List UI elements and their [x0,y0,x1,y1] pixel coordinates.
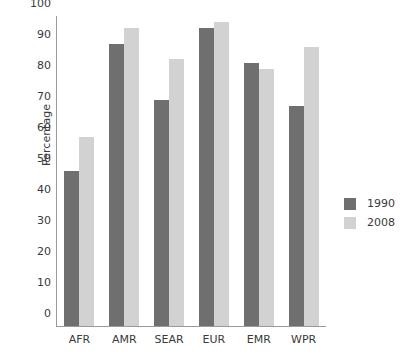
bar-group-afr: AFR [64,16,94,326]
y-tick-label: 100 [30,0,51,10]
bar-afr-2008[interactable] [79,137,94,326]
y-tick-label: 0 [44,307,51,320]
y-tick-label: 70 [37,90,51,103]
bar-emr-2008[interactable] [259,69,274,326]
bar-group-sear: SEAR [154,16,184,326]
legend-swatch-icon [344,198,356,210]
legend-item-1990[interactable]: 1990 [344,194,395,213]
legend: 19902008 [344,194,395,232]
legend-label: 2008 [367,216,395,229]
bar-sear-1990[interactable] [154,100,169,326]
bar-sear-2008[interactable] [169,59,184,326]
bar-group-eur: EUR [199,16,229,326]
legend-item-2008[interactable]: 2008 [344,213,395,232]
bar-group-emr: EMR [244,16,274,326]
plot-area: 0102030405060708090100 AFRAMRSEAREUREMRW… [56,16,326,327]
bar-chart: Percentage 0102030405060708090100 AFRAMR… [0,0,411,360]
bar-emr-1990[interactable] [244,63,259,327]
y-tick-label: 80 [37,59,51,72]
y-tick-label: 50 [37,152,51,165]
bar-afr-1990[interactable] [64,171,79,326]
y-tick-label: 90 [37,28,51,41]
y-tick-label: 30 [37,214,51,227]
bar-wpr-1990[interactable] [289,106,304,326]
bar-eur-2008[interactable] [214,22,229,326]
bar-wpr-2008[interactable] [304,47,319,326]
bar-group-amr: AMR [109,16,139,326]
bar-amr-2008[interactable] [124,28,139,326]
x-tick-label: WPR [274,333,334,346]
bar-eur-1990[interactable] [199,28,214,326]
y-tick-label: 60 [37,121,51,134]
y-tick-label: 10 [37,276,51,289]
y-tick-label: 40 [37,183,51,196]
legend-label: 1990 [367,197,395,210]
bar-group-wpr: WPR [289,16,319,326]
bar-amr-1990[interactable] [109,44,124,326]
y-tick-label: 20 [37,245,51,258]
legend-swatch-icon [344,217,356,229]
y-axis-title: Percentage [40,90,54,180]
